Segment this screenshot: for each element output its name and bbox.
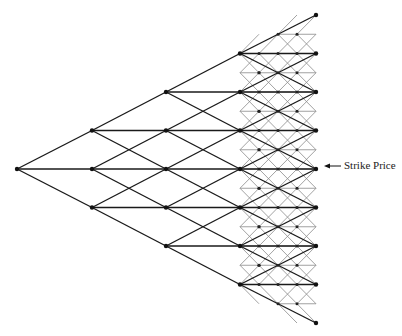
arrow-icon	[324, 164, 341, 169]
tree-diagram	[0, 0, 402, 336]
strike-price-label: Strike Price	[344, 159, 396, 171]
